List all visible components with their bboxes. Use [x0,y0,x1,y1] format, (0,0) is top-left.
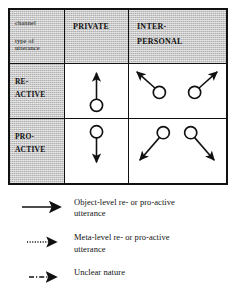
row-header-proactive-label: PRO- ACTIVE [15,130,45,156]
corner-label-channel: channel [15,19,36,26]
column-header-interpersonal-line1: INTER- [137,22,167,31]
cell-private-reactive-diagram [65,64,128,117]
cell-private-proactive [65,119,129,183]
legend-label-meta-level-line2: utterance [74,244,170,255]
column-header-private: PRIVATE [65,10,129,64]
legend-label-meta-level-line1: Meta-level re- or pro-active [74,232,170,242]
row-header-proactive: PRO- ACTIVE [10,119,65,183]
arrow-up-right [199,72,218,89]
legend-item-unclear: Unclear nature [8,267,230,289]
legend-glyph-dashdot-arrow-icon [8,267,74,287]
node-circle [90,99,102,111]
dotted-arrow-icon [8,236,74,248]
column-header-interpersonal: INTER- PERSONAL [129,10,226,64]
dash-dot-arrow-icon [8,271,74,283]
row-header-proactive-line2: ACTIVE [15,145,45,154]
legend-label-meta-level: Meta-level re- or pro-active utterance [74,232,170,254]
cell-interpersonal-reactive-diagram [129,64,226,117]
legend-item-meta-level: Meta-level re- or pro-active utterance [8,232,230,254]
cell-private-reactive [65,64,129,119]
row-header-reactive-label: RE- ACTIVE [15,75,45,101]
matrix-corner-header: channel type of utterance [10,10,65,64]
node-circle-left [157,127,169,139]
column-header-private-label: PRIVATE [73,19,109,34]
arrow-up-left [137,72,156,89]
node-circle-right [189,86,201,98]
legend-item-object-level: Object-level re- or pro-active utterance [8,197,230,219]
cell-private-proactive-diagram [65,119,128,182]
corner-label-utterance: utterance [15,44,40,51]
legend-label-object-level: Object-level re- or pro-active utterance [74,197,175,219]
cell-interpersonal-reactive [129,64,226,119]
corner-label-type-of-utterance: type of utterance [15,37,40,51]
legend-label-unclear-line1: Unclear nature [74,267,125,277]
arrow-down-right [195,138,215,161]
solid-arrow-icon [8,201,74,213]
legend: Object-level re- or pro-active utterance… [8,193,230,289]
cell-interpersonal-proactive [129,119,226,183]
arrow-down-left [140,138,160,161]
row-header-reactive-line1: RE- [15,77,29,86]
channel-utterance-matrix: channel type of utterance PRIVATE INTER-… [8,8,228,185]
row-header-reactive: RE- ACTIVE [10,64,65,119]
row-header-proactive-line1: PRO- [15,132,34,141]
legend-label-unclear: Unclear nature [74,267,125,278]
corner-label-type-of: type of [15,37,34,44]
legend-label-object-level-line1: Object-level re- or pro-active [74,197,175,207]
legend-glyph-solid-arrow-icon [8,197,74,217]
node-circle-right [185,127,197,139]
node-circle [90,126,102,138]
column-header-interpersonal-line2: PERSONAL [137,37,183,46]
node-circle-left [153,86,165,98]
column-header-interpersonal-label: INTER- PERSONAL [137,19,183,49]
row-header-reactive-line2: ACTIVE [15,90,45,99]
legend-glyph-dotted-arrow-icon [8,232,74,252]
legend-label-object-level-line2: utterance [74,208,175,219]
cell-interpersonal-proactive-diagram [129,119,226,182]
